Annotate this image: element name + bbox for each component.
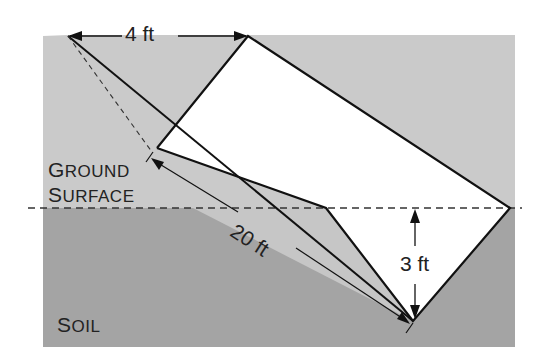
trench-diagram — [0, 0, 552, 364]
ground-surface-label-line2: SURFACE — [48, 183, 134, 207]
depth-dimension-label: 3 ft — [400, 252, 429, 276]
width-dimension-label: 4 ft — [125, 22, 154, 46]
soil-label: SOIL — [57, 313, 100, 337]
ground-surface-label-line1: GROUND — [48, 158, 130, 182]
